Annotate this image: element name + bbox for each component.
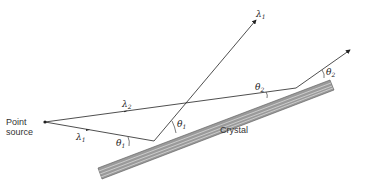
theta1-incident-label: θ1 — [116, 138, 125, 149]
angle-arc-theta2-incident — [266, 92, 267, 98]
angle-arc-theta1-incident — [128, 137, 129, 146]
angle-arc-theta2-reflected — [322, 70, 324, 78]
reflected-ray-lambda2 — [296, 50, 350, 88]
angle-arc-theta1-reflected — [172, 121, 176, 133]
lambda1-reflected-label: λ1 — [255, 9, 266, 20]
bragg-diffraction-diagram: Point source Crystal λ1 λ2 λ1 θ1 θ1 θ2 θ… — [0, 0, 366, 181]
lambda2-incident-label: λ2 — [121, 99, 132, 110]
lambda1-incident-label: λ1 — [75, 132, 86, 143]
crystal-label: Crystal — [220, 125, 248, 135]
crystal-slab — [98, 80, 334, 179]
theta2-reflected-label: θ2 — [326, 67, 335, 78]
theta2-incident-label: θ2 — [255, 82, 264, 93]
theta1-reflected-label: θ1 — [177, 119, 186, 130]
point-source-label-line2: source — [6, 127, 33, 137]
point-source-label-line1: Point — [6, 117, 27, 127]
incident-ray-lambda1 — [45, 122, 154, 141]
